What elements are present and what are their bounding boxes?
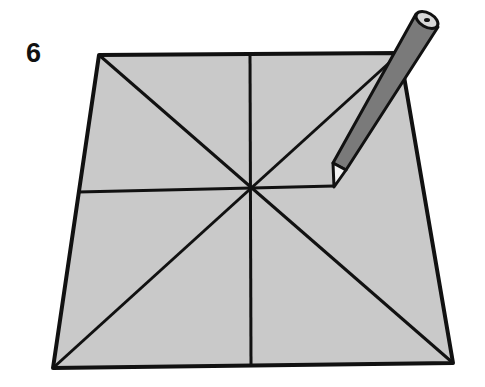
vertical-crease xyxy=(250,54,251,366)
diagram-canvas: 6 xyxy=(0,0,485,387)
pencil-drawn-line xyxy=(252,186,334,188)
paper-sheet xyxy=(53,53,453,368)
folding-diagram xyxy=(0,0,485,387)
